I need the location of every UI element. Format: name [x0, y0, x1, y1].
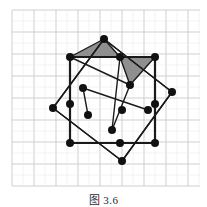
vertex-square-top-mid: [116, 53, 124, 61]
vertex-bottom-apex: [118, 157, 126, 165]
vertex-square-left-mid: [66, 100, 74, 108]
vertex-right-apex: [168, 88, 176, 96]
geometry-figure-svg: [0, 0, 207, 207]
vertex-top-apex: [100, 35, 108, 43]
vertex-right-mid: [144, 106, 152, 114]
vertex-square-right-mid: [151, 100, 159, 108]
vertex-square-bottom-left: [66, 139, 74, 147]
vertex-tilted-upper-right: [126, 81, 134, 89]
vertex-left-apex: [49, 104, 57, 112]
vertex-inner-upper-left: [79, 84, 87, 92]
figure-caption: 图 3.6: [0, 194, 207, 206]
vertex-square-top-left: [66, 53, 74, 61]
vertex-inner-center: [118, 106, 126, 114]
vertex-inner-lower-left: [84, 111, 92, 119]
vertex-inner-lower: [108, 126, 116, 134]
figure-container: 图 3.6: [0, 0, 207, 207]
figure-background: [0, 0, 207, 207]
vertex-square-bottom-mid: [116, 139, 124, 147]
vertex-square-bottom-right: [151, 139, 159, 147]
vertex-square-top-right: [151, 53, 159, 61]
